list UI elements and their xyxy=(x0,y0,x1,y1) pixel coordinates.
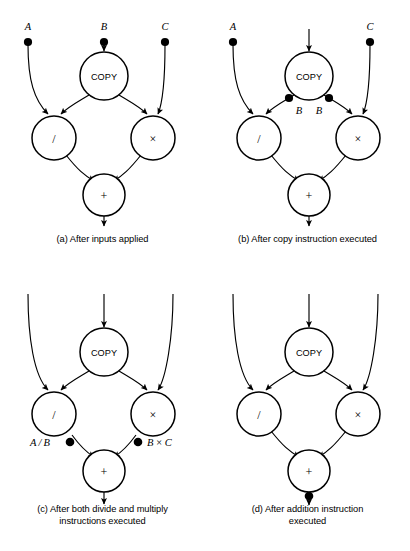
wire-multiply-to-add xyxy=(114,155,141,181)
token-b-left xyxy=(285,94,293,102)
node-add-label: + xyxy=(101,189,108,203)
node-multiply-label: × xyxy=(355,408,362,422)
wire-copy-to-multiply xyxy=(324,371,352,390)
node-add-label: + xyxy=(306,189,313,203)
wire-a-to-divide xyxy=(28,294,48,390)
panel-c: COPY / × + A / B B × C (c) After both di… xyxy=(0,276,205,551)
panel-d-caption-line-1: (d) After addition instruction xyxy=(205,503,410,515)
wire-multiply-to-add xyxy=(319,431,346,457)
panel-b-caption: (b) After copy instruction executed xyxy=(205,233,410,245)
node-add-label: + xyxy=(101,465,108,479)
panel-c-caption-line-1: (c) After both divide and multiply xyxy=(0,503,205,515)
token-b-mul-c xyxy=(134,438,143,447)
token-a xyxy=(24,38,32,46)
wire-divide-to-add xyxy=(271,155,299,181)
node-add-label: + xyxy=(306,465,313,479)
input-label-a: A xyxy=(24,21,32,32)
wire-c-to-multiply xyxy=(158,294,173,390)
panel-a-caption: (a) After inputs applied xyxy=(0,233,205,245)
dataflow-graph-b: COPY / × + A C B B xyxy=(205,0,410,232)
wire-multiply-to-add xyxy=(114,435,136,457)
panel-d-caption: (d) After addition instruction executed xyxy=(205,503,410,527)
node-copy-label: COPY xyxy=(91,72,117,82)
dataflow-graph-d: COPY / × + A / B + B × C xyxy=(205,276,410,508)
node-copy-label: COPY xyxy=(296,348,322,358)
dataflow-graph-c: COPY / × + A / B B × C xyxy=(0,276,205,508)
input-label-b: B xyxy=(101,21,108,32)
panel-d: COPY / × + A / B + B × C (d) After addit… xyxy=(205,276,410,551)
token-c xyxy=(161,38,169,46)
wire-c-to-multiply xyxy=(363,45,370,114)
token-label-b-mul-c: B × C xyxy=(147,437,173,448)
token-label-b-left: B xyxy=(296,105,303,116)
panel-a-caption-line-1: (a) After inputs applied xyxy=(0,233,205,245)
input-label-a: A xyxy=(229,21,237,32)
token-result xyxy=(305,492,314,501)
panel-d-caption-line-2: executed xyxy=(205,515,410,527)
wire-copy-to-multiply xyxy=(119,371,147,390)
input-label-c: C xyxy=(366,21,374,32)
wire-divide-to-add xyxy=(66,155,94,181)
token-b-right xyxy=(325,94,333,102)
token-b xyxy=(100,38,108,46)
panel-b-caption-line-1: (b) After copy instruction executed xyxy=(205,233,410,245)
node-multiply-label: × xyxy=(150,132,157,146)
input-label-c: C xyxy=(161,21,169,32)
token-label-b-right: B xyxy=(316,105,323,116)
wire-copy-to-divide xyxy=(266,371,294,390)
node-multiply-label: × xyxy=(150,408,157,422)
wire-divide-to-add xyxy=(271,431,299,457)
wire-multiply-to-add xyxy=(319,155,346,181)
dataflow-graph-a: COPY / × + A B C xyxy=(0,0,205,232)
wire-copy-to-divide xyxy=(61,371,89,390)
wire-c-to-multiply xyxy=(158,45,165,114)
wire-divide-to-add xyxy=(72,435,94,457)
token-a-div-b xyxy=(66,438,75,447)
wire-copy-to-multiply xyxy=(119,95,147,114)
panel-b: COPY / × + A C B B (b) After copy instru… xyxy=(205,0,410,275)
panel-c-caption: (c) After both divide and multiply instr… xyxy=(0,503,205,527)
node-multiply-label: × xyxy=(355,132,362,146)
token-c xyxy=(366,38,374,46)
panel-c-caption-line-2: instructions executed xyxy=(0,515,205,527)
token-label-a-div-b: A / B xyxy=(29,437,51,448)
panel-a: COPY / × + A B C (a) After inputs applie… xyxy=(0,0,205,275)
node-copy-label: COPY xyxy=(91,348,117,358)
node-copy-label: COPY xyxy=(296,72,322,82)
wire-a-to-divide xyxy=(233,45,253,114)
wire-copy-to-divide xyxy=(61,95,89,114)
token-a xyxy=(229,38,237,46)
wire-a-to-divide xyxy=(28,45,48,114)
wire-c-to-multiply xyxy=(363,294,378,390)
wire-a-to-divide xyxy=(233,294,253,390)
